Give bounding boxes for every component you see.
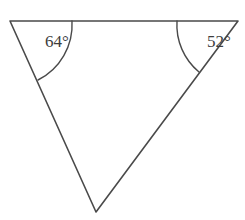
- angle-label-top-left: 64°: [45, 32, 69, 51]
- angle-label-top-right: 52°: [207, 32, 231, 51]
- angle-arc-top-right: [177, 21, 199, 72]
- triangle-diagram-canvas: 64° 52°: [0, 0, 245, 220]
- geometry-figure: 64° 52°: [0, 0, 245, 220]
